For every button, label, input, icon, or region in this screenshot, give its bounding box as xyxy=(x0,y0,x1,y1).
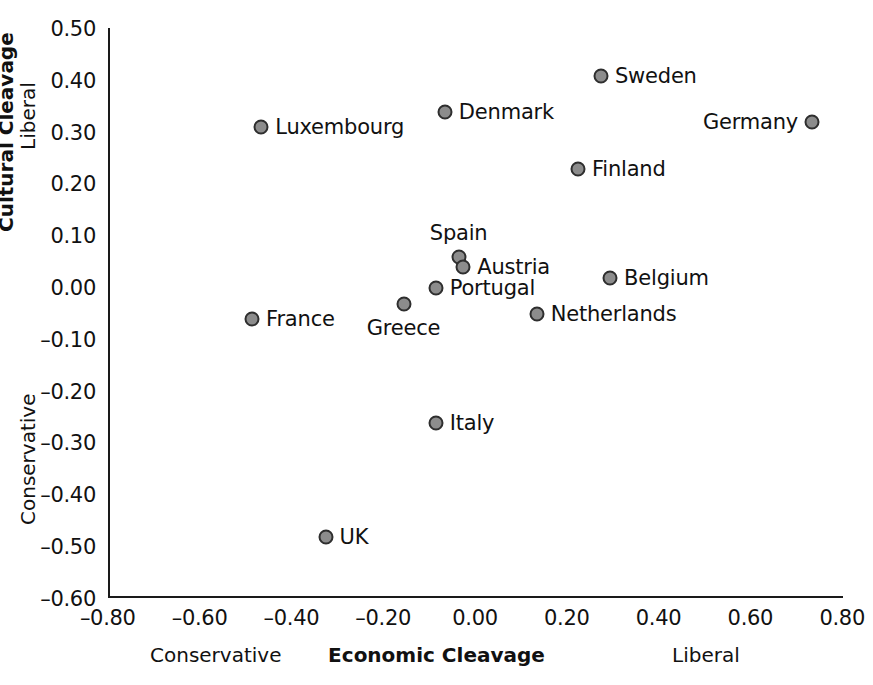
scatter-chart-figure: Cultural Cleavage Liberal Conservative 0… xyxy=(0,0,873,685)
y-tick-label: –0.20 xyxy=(0,380,96,404)
y-tick-label: –0.50 xyxy=(0,535,96,559)
y-tick-label: 0.50 xyxy=(0,17,96,41)
data-point-marker xyxy=(437,104,452,119)
y-tick-label: –0.30 xyxy=(0,431,96,455)
x-tick-label: 0.00 xyxy=(452,606,498,630)
x-tick-label: –0.40 xyxy=(264,606,320,630)
x-tick-label: –0.80 xyxy=(80,606,136,630)
data-point-label: Sweden xyxy=(615,64,697,88)
data-point-marker xyxy=(428,281,443,296)
data-point-marker xyxy=(318,529,333,544)
x-axis-high-label: Liberal xyxy=(672,643,740,667)
data-point-label: Portugal xyxy=(450,276,535,300)
data-point-marker xyxy=(428,415,443,430)
plot-area: SwedenDenmarkLuxembourgGermanyFinlandSpa… xyxy=(108,28,843,598)
data-point-marker xyxy=(456,260,471,275)
data-point-marker xyxy=(593,68,608,83)
data-point-label: Greece xyxy=(367,316,441,340)
data-point-marker xyxy=(396,296,411,311)
x-tick-label: 0.80 xyxy=(819,606,865,630)
y-tick-label: 0.10 xyxy=(0,224,96,248)
x-tick-label: 0.40 xyxy=(636,606,682,630)
y-tick-label: –0.10 xyxy=(0,328,96,352)
data-point-label: Belgium xyxy=(624,266,709,290)
data-point-label: Germany xyxy=(703,110,798,134)
data-point-label: Finland xyxy=(592,157,666,181)
data-point-label: Luxembourg xyxy=(275,115,404,139)
data-point-marker xyxy=(245,312,260,327)
y-tick-label: 0.30 xyxy=(0,121,96,145)
x-tick-label: 0.60 xyxy=(728,606,774,630)
y-tick-label: 0.40 xyxy=(0,69,96,93)
y-tick-label: 0.00 xyxy=(0,276,96,300)
data-point-marker xyxy=(254,120,269,135)
x-tick-label: 0.20 xyxy=(544,606,590,630)
data-point-marker xyxy=(603,270,618,285)
data-point-label: Netherlands xyxy=(551,302,677,326)
y-tick-label: 0.20 xyxy=(0,172,96,196)
data-point-label: UK xyxy=(340,525,369,549)
data-point-label: Spain xyxy=(430,221,488,245)
data-point-label: Denmark xyxy=(459,100,554,124)
y-tick-label: –0.40 xyxy=(0,483,96,507)
x-axis-title: Economic Cleavage xyxy=(0,643,873,667)
x-tick-label: –0.20 xyxy=(355,606,411,630)
data-point-marker xyxy=(570,161,585,176)
x-tick-label: –0.60 xyxy=(172,606,228,630)
data-point-label: France xyxy=(266,307,335,331)
data-point-marker xyxy=(529,306,544,321)
data-point-label: Italy xyxy=(450,411,495,435)
data-point-marker xyxy=(805,115,820,130)
